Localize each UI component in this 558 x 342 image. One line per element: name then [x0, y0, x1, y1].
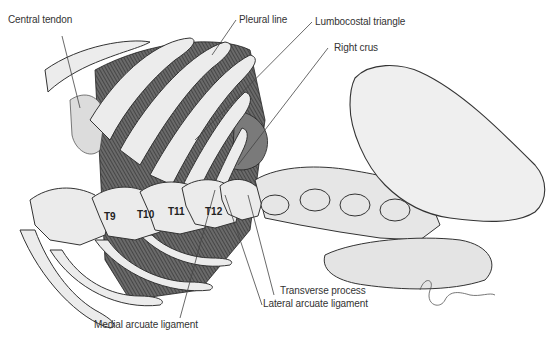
vertebra-label-t10: T10	[137, 209, 154, 220]
label-central-tendon: Central tendon	[8, 14, 72, 25]
label-lateral-arcuate-ligament: Lateral arcuate ligament	[263, 298, 368, 309]
label-right-crus: Right crus	[334, 42, 378, 53]
vertebra-label-t9: T9	[104, 211, 116, 222]
label-transverse-process: Transverse process	[280, 285, 366, 296]
vertebra-label-t12: T12	[205, 206, 222, 217]
label-pleural-line: Pleural line	[239, 14, 287, 25]
sacrum	[324, 238, 492, 289]
vertebra-label-t11: T11	[168, 206, 185, 217]
label-lumbocostal-triangle: Lumbocostal triangle	[315, 16, 405, 27]
anatomy-figure: Central tendon Pleural line Lumbocostal …	[0, 0, 558, 342]
illustration	[0, 0, 558, 342]
label-medial-arcuate-ligament: Medial arcuate ligament	[94, 319, 198, 330]
